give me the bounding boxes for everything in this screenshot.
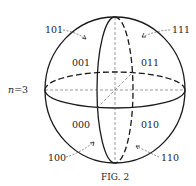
arrowhead-100 — [90, 142, 94, 146]
region-label-110: 110 — [161, 152, 179, 163]
arrowhead-101 — [82, 35, 86, 39]
parameter-label: n=3 — [8, 84, 28, 95]
region-label-101: 101 — [45, 24, 63, 35]
arrowhead-111 — [142, 33, 146, 37]
parameter-value: =3 — [14, 84, 28, 95]
region-label-000: 000 — [72, 119, 90, 130]
region-label-100: 100 — [48, 152, 66, 163]
region-label-011: 011 — [141, 57, 159, 68]
region-label-111: 111 — [172, 24, 190, 35]
leader-100 — [66, 142, 94, 157]
region-label-010: 010 — [141, 119, 159, 130]
region-label-001: 001 — [72, 57, 90, 68]
sphere-diagram: 001 011 000 010 101 111 100 110 n=3 FIG.… — [0, 0, 196, 186]
figure-caption: FIG. 2 — [101, 172, 129, 182]
